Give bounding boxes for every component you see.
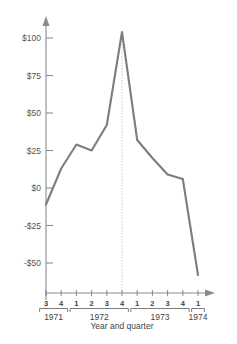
- x-axis: [46, 290, 215, 297]
- x-axis-year-brackets: [40, 309, 205, 313]
- y-tick-label: -$50: [24, 258, 41, 268]
- y-tick-label: $75: [27, 71, 41, 81]
- y-tick-label: -$25: [24, 221, 41, 231]
- x-quarter-label: 3: [166, 299, 170, 308]
- x-quarter-label: 2: [150, 299, 154, 308]
- x-quarter-label: 4: [59, 299, 64, 308]
- line-chart: $100$75$50$25$0-$25-$50 34123412341 1971…: [0, 0, 237, 344]
- x-year-label: 1971: [44, 312, 63, 322]
- x-quarter-label: 1: [135, 299, 139, 308]
- x-quarter-label: 2: [90, 299, 94, 308]
- x-year-label: 1974: [189, 312, 208, 322]
- x-quarter-label: 1: [74, 299, 78, 308]
- x-quarter-label: 4: [120, 299, 125, 308]
- x-axis-quarter-labels: 34123412341: [44, 299, 200, 308]
- y-tick-label: $25: [27, 146, 41, 156]
- chart-canvas: $100$75$50$25$0-$25-$50 34123412341 1971…: [0, 0, 237, 344]
- x-quarter-label: 3: [105, 299, 109, 308]
- x-quarter-label: 3: [44, 299, 48, 308]
- x-axis-arrow-icon: [205, 290, 215, 297]
- y-axis-ticks: $100$75$50$25$0-$25-$50: [22, 33, 53, 268]
- x-axis-title: Year and quarter: [90, 321, 153, 331]
- y-axis-arrow-icon: [43, 16, 50, 26]
- y-axis: [43, 16, 50, 300]
- y-tick-label: $0: [32, 183, 42, 193]
- y-tick-label: $100: [22, 33, 41, 43]
- x-quarter-label: 4: [181, 299, 186, 308]
- y-tick-label: $50: [27, 108, 41, 118]
- x-quarter-label: 1: [196, 299, 200, 308]
